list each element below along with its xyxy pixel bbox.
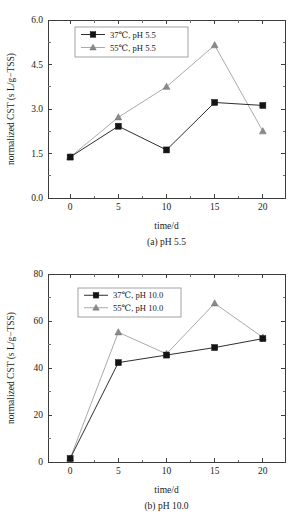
- chart-panel-b: 02040608005101520time/dnormalized CST (s…: [0, 265, 297, 523]
- y-axis-title: normalized CST (s L/g−TSS): [6, 312, 17, 424]
- data-point-marker: [115, 123, 121, 129]
- x-tick-label: 10: [162, 202, 172, 212]
- x-tick-label: 20: [258, 202, 268, 212]
- data-point-marker: [260, 102, 266, 108]
- legend-label: 37℃, pH 5.5: [110, 30, 156, 40]
- legend-label: 55℃, pH 10.0: [113, 303, 163, 313]
- data-point-marker: [115, 329, 122, 335]
- data-point-marker: [211, 300, 218, 306]
- y-tick-label: 40: [34, 363, 44, 373]
- data-point-marker: [212, 99, 218, 105]
- panel-caption: (b) pH 10.0: [144, 501, 188, 512]
- y-tick-label: 0.0: [31, 193, 43, 203]
- data-point-marker: [259, 128, 266, 134]
- x-tick-label: 20: [258, 466, 268, 476]
- data-point-marker: [115, 360, 121, 366]
- data-point-marker: [67, 154, 73, 160]
- y-tick-label: 60: [34, 316, 44, 326]
- y-axis-title: normalized CST (s L/g−TSS): [6, 53, 17, 165]
- y-tick-label: 1.5: [31, 149, 43, 159]
- y-tick-label: 6.0: [31, 15, 43, 25]
- chart-legend: 37℃, pH 10.055℃, pH 10.0: [78, 288, 181, 317]
- x-axis-title: time/d: [154, 221, 179, 231]
- y-tick-label: 0: [38, 457, 43, 467]
- y-tick-label: 4.5: [31, 60, 43, 70]
- chart-legend: 37℃, pH 5.555℃, pH 5.5: [75, 27, 188, 57]
- legend-label: 55℃, pH 5.5: [110, 43, 156, 53]
- figure-page: 0.01.53.04.56.005101520time/dnormalized …: [0, 0, 297, 523]
- panel-caption: (a) pH 5.5: [147, 237, 186, 248]
- y-tick-label: 3.0: [31, 104, 43, 114]
- legend-label: 37℃, pH 10.0: [113, 290, 163, 300]
- data-point-marker: [164, 147, 170, 153]
- series-line: [70, 45, 263, 157]
- x-tick-label: 15: [210, 202, 220, 212]
- data-point-marker: [212, 345, 218, 351]
- chart-b-canvas: 02040608005101520time/dnormalized CST (s…: [0, 265, 297, 523]
- chart-a-canvas: 0.01.53.04.56.005101520time/dnormalized …: [0, 0, 297, 268]
- x-tick-label: 5: [116, 202, 121, 212]
- legend-marker: [90, 32, 96, 38]
- data-point-marker: [211, 42, 218, 48]
- x-axis-title: time/d: [154, 485, 179, 495]
- x-tick-label: 0: [68, 466, 73, 476]
- x-tick-label: 5: [116, 466, 121, 476]
- series-line: [70, 303, 263, 458]
- legend-marker: [93, 292, 99, 298]
- x-tick-label: 15: [210, 466, 220, 476]
- x-tick-label: 10: [162, 466, 172, 476]
- chart-panel-a: 0.01.53.04.56.005101520time/dnormalized …: [0, 0, 297, 268]
- data-point-marker: [164, 352, 170, 358]
- y-tick-label: 80: [34, 269, 44, 279]
- data-point-marker: [260, 336, 266, 342]
- y-tick-label: 20: [34, 410, 44, 420]
- data-point-marker: [115, 114, 122, 120]
- data-point-marker: [67, 455, 73, 461]
- x-tick-label: 0: [68, 202, 73, 212]
